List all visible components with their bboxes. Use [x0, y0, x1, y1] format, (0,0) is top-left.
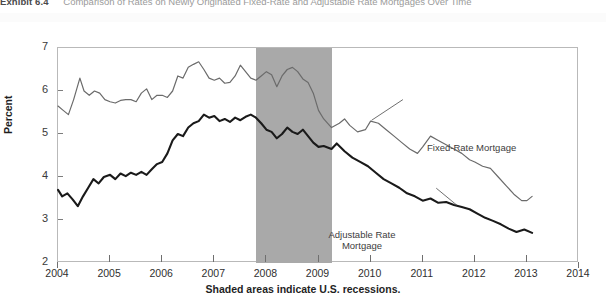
x-axis-tick-mark: [318, 255, 319, 262]
x-axis-tick-mark: [265, 255, 266, 262]
x-axis-tick-label: 2009: [298, 267, 338, 279]
x-axis-tick-label: 2014: [558, 267, 598, 279]
x-axis-tick-mark: [370, 255, 371, 262]
x-axis-tick-label: 2004: [37, 267, 77, 279]
x-axis-tick-label: 2005: [89, 267, 129, 279]
x-axis-tick-mark: [422, 255, 423, 262]
y-axis-tick-label: 7: [30, 40, 48, 52]
y-axis-tick-label: 5: [30, 126, 48, 138]
y-axis-tick-label: 2: [30, 255, 48, 267]
y-axis-tick-mark: [58, 176, 63, 177]
title-divider: [0, 13, 606, 22]
series-line-adjustable-rate: [58, 115, 532, 233]
y-axis-tick-mark: [58, 90, 63, 91]
exhibit-title-strip: Exhibit 6.4 Comparison of Rates on Newly…: [0, 0, 606, 13]
x-axis-tick-label: 2011: [402, 267, 442, 279]
plot-area: [57, 47, 578, 262]
y-axis-tick-label: 6: [30, 83, 48, 95]
annotation-leader-line-fixed: [372, 100, 403, 121]
x-axis-tick-mark: [526, 255, 527, 262]
y-axis-tick-mark: [58, 219, 63, 220]
exhibit-title: Exhibit 6.4 Comparison of Rates on Newly…: [0, 0, 471, 7]
chart-figure: Percent 76543220042005200620072008200920…: [0, 22, 606, 297]
x-axis-tick-label: 2010: [350, 267, 390, 279]
x-axis-tick-mark: [474, 255, 475, 262]
series-line-fixed-rate: [58, 62, 532, 201]
annotation-adjustable-rate: Adjustable Rate Mortgage: [319, 229, 405, 251]
annotation-adjustable-rate-line2: Mortgage: [319, 240, 405, 251]
x-axis-tick-label: 2008: [245, 267, 285, 279]
x-axis-tick-label: 2006: [141, 267, 181, 279]
y-axis-title: Percent: [2, 95, 14, 134]
annotation-adjustable-rate-line1: Adjustable Rate: [319, 229, 405, 240]
x-axis-tick-label: 2013: [506, 267, 546, 279]
x-axis-tick-mark: [161, 255, 162, 262]
x-axis-tick-mark: [109, 255, 110, 262]
exhibit-number: Exhibit 6.4: [0, 0, 49, 7]
x-axis-tick-label: 2007: [193, 267, 233, 279]
x-axis-tick-label: 2012: [454, 267, 494, 279]
x-axis-tick-mark: [57, 262, 58, 268]
y-axis-tick-label: 3: [30, 212, 48, 224]
y-axis-tick-label: 4: [30, 169, 48, 181]
annotation-fixed-rate: Fixed-Rate Mortgage: [427, 142, 516, 153]
y-axis-tick-mark: [58, 133, 63, 134]
annotation-fixed-rate-label: Fixed-Rate Mortgage: [427, 142, 516, 153]
x-axis-tick-mark: [578, 262, 579, 268]
exhibit-caption: Comparison of Rates on Newly Originated …: [63, 0, 471, 7]
chart-footnote: Shaded areas indicate U.S. recessions.: [0, 283, 606, 295]
x-axis-tick-mark: [213, 255, 214, 262]
